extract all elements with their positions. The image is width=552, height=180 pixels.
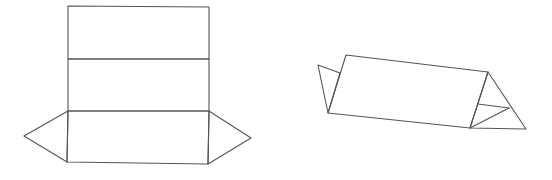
folded-prism bbox=[318, 55, 526, 129]
net-left-triangle bbox=[24, 111, 68, 162]
prism-net bbox=[24, 6, 251, 164]
net-face-middle bbox=[68, 59, 209, 111]
diagram-canvas bbox=[0, 0, 552, 180]
net-face-top bbox=[68, 6, 209, 59]
net-face-bottom bbox=[67, 111, 209, 164]
prism-front-face bbox=[328, 55, 488, 128]
prism-diagram bbox=[0, 0, 552, 180]
prism-left-flap bbox=[318, 65, 340, 113]
prism-right-triangle bbox=[470, 72, 526, 129]
net-right-triangle bbox=[208, 111, 251, 164]
prism-right-inner-edge-1 bbox=[478, 104, 509, 108]
